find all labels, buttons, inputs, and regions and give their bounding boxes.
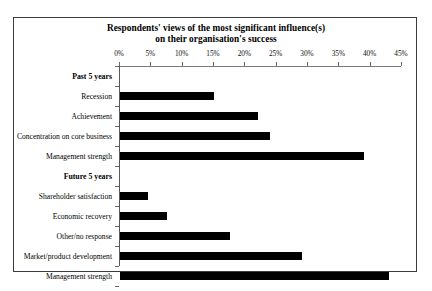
- x-axis-tick-label: 15%: [206, 49, 219, 58]
- x-axis-tick-label: 45%: [394, 49, 407, 58]
- x-axis-tick-label: 20%: [238, 49, 251, 58]
- y-axis-tick: [115, 266, 119, 267]
- y-axis-tick: [115, 146, 119, 147]
- category-label: Achievement: [72, 112, 112, 121]
- bar-row-group-header: Past 5 years: [119, 66, 401, 86]
- bar: [120, 112, 258, 120]
- bar-row: Recession: [119, 86, 401, 106]
- bar: [120, 252, 302, 260]
- bar: [120, 272, 389, 280]
- chart-title-line-2: on their organisation's success: [14, 34, 418, 45]
- bar: [120, 232, 230, 240]
- x-axis-tick-label: 35%: [332, 49, 345, 58]
- y-axis-tick: [115, 226, 119, 227]
- plot-area: 0%5%10%15%20%25%30%35%40%45% Past 5 year…: [119, 66, 401, 266]
- bar: [120, 132, 270, 140]
- category-label: Shareholder satisfaction: [39, 192, 112, 201]
- bar: [120, 152, 364, 160]
- x-axis-tick: [401, 62, 402, 66]
- bar-row: Shareholder satisfaction: [119, 186, 401, 206]
- category-label: Management strength: [46, 152, 112, 161]
- x-axis-tick-label: 10%: [175, 49, 188, 58]
- bar: [120, 192, 148, 200]
- y-axis-tick: [115, 66, 119, 67]
- y-axis-tick: [115, 106, 119, 107]
- y-axis-tick: [115, 166, 119, 167]
- bar-row: Management strength: [119, 266, 401, 286]
- category-label: Market/product development: [24, 252, 112, 261]
- y-axis-tick: [115, 206, 119, 207]
- bar: [120, 212, 167, 220]
- category-label: Other/no response: [57, 232, 112, 241]
- bar-row: Market/product development: [119, 246, 401, 266]
- chart-title: Respondents' views of the most significa…: [14, 23, 418, 45]
- bar-row: Other/no response: [119, 226, 401, 246]
- category-label: Recession: [81, 92, 112, 101]
- chart-frame: Respondents' views of the most significa…: [13, 17, 417, 272]
- x-axis-tick-label: 0%: [114, 49, 124, 58]
- bar-row: Achievement: [119, 106, 401, 126]
- y-axis-tick: [115, 186, 119, 187]
- group-label: Future 5 years: [64, 172, 112, 181]
- y-axis-tick: [115, 86, 119, 87]
- category-label: Concentration on core business: [17, 132, 112, 141]
- category-label: Economic recovery: [53, 212, 112, 221]
- x-axis-tick-label: 25%: [269, 49, 282, 58]
- y-axis-tick: [115, 126, 119, 127]
- group-label: Past 5 years: [72, 72, 112, 81]
- bar-row: Concentration on core business: [119, 126, 401, 146]
- x-axis-tick-label: 40%: [363, 49, 376, 58]
- y-axis-tick: [115, 286, 119, 287]
- bar-row: Economic recovery: [119, 206, 401, 226]
- category-label: Management strength: [46, 272, 112, 281]
- bar-row-group-header: Future 5 years: [119, 166, 401, 186]
- chart-title-line-1: Respondents' views of the most significa…: [107, 23, 325, 33]
- bar-row: Management strength: [119, 146, 401, 166]
- bar: [120, 92, 214, 100]
- x-axis-tick-label: 5%: [145, 49, 155, 58]
- y-axis-tick: [115, 246, 119, 247]
- x-axis-tick-label: 30%: [300, 49, 313, 58]
